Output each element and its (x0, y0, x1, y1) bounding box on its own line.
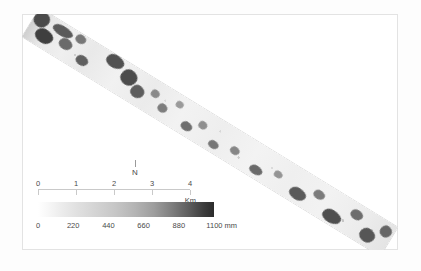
scale-tick-mark (114, 190, 115, 195)
scale-tick-mark (152, 190, 153, 195)
scale-tick-label: 2 (112, 179, 116, 188)
north-arrow: N (126, 160, 144, 177)
scale-tick-mark (38, 190, 39, 195)
color-legend-labels: 0 220 440 660 880 1100 mm (38, 221, 214, 233)
color-legend: 0 220 440 660 880 1100 mm (38, 202, 214, 233)
color-ramp (38, 202, 214, 217)
scale-tick-label: 4 (188, 179, 192, 188)
scale-tick-label: 0 (36, 179, 40, 188)
scale-tick-mark (76, 190, 77, 195)
legend-tick-label: 440 (102, 221, 115, 231)
scale-bar: 0 1 2 3 4 Km (38, 179, 190, 196)
scale-bar-axis: Km (38, 189, 190, 196)
legend-tick-label: 660 (137, 221, 150, 231)
scale-tick-mark (190, 190, 191, 195)
scale-bar-tick-labels: 0 1 2 3 4 (38, 179, 190, 189)
north-arrow-label: N (132, 168, 138, 177)
north-arrow-icon (135, 160, 136, 167)
scale-tick-label: 3 (150, 179, 154, 188)
legend-tick-label: 220 (67, 221, 80, 231)
legend-tick-label-max: 1100 mm (206, 221, 237, 231)
scale-tick-label: 1 (74, 179, 78, 188)
map-figure: N 0 1 2 3 4 Km 0 220 (0, 0, 421, 271)
legend-tick-label: 0 (36, 221, 40, 231)
legend-tick-label: 880 (173, 221, 186, 231)
